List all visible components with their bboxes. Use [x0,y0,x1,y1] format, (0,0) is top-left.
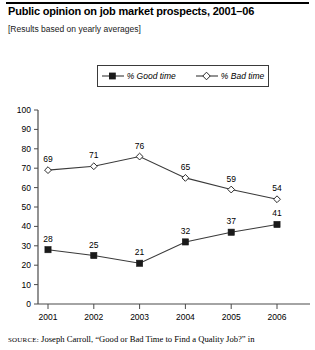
data-point-marker [91,252,97,258]
line-chart-plot: 1009080706050403020100 20012002200320042… [0,0,315,330]
y-tick-label: 50 [22,202,32,212]
data-point-marker [90,163,97,170]
y-tick-label: 100 [17,105,31,115]
x-tick-label: 2002 [84,312,103,322]
data-point-marker [274,221,280,227]
data-point-label: 41 [272,208,282,218]
y-tick-label: 60 [22,183,32,193]
data-point-label: 25 [89,240,99,250]
x-tick-label: 2003 [130,312,149,322]
data-point-marker [45,247,51,253]
y-axis: 1009080706050403020100 [17,105,38,309]
data-point-marker [274,196,281,203]
data-point-marker [137,260,143,266]
x-tick-label: 2005 [222,312,241,322]
data-point-label: 54 [272,183,282,193]
y-tick-label: 40 [22,221,32,231]
source-text: Joseph Carroll, “Good or Bad Time to Fin… [39,334,255,344]
data-point-label: 28 [43,234,53,244]
data-point-label: 37 [226,216,236,226]
data-point-marker [182,239,188,245]
data-point-label: 21 [135,247,145,257]
y-tick-label: 0 [26,299,31,309]
data-point-label: 59 [226,174,236,184]
data-point-label: 65 [181,162,191,172]
data-point-label: 69 [43,154,53,164]
data-series-layer [45,153,281,266]
y-tick-label: 10 [22,280,32,290]
y-tick-label: 80 [22,144,32,154]
y-tick-label: 70 [22,163,32,173]
data-point-label: 32 [181,226,191,236]
data-point-label: 71 [89,150,99,160]
y-tick-label: 30 [22,241,32,251]
x-tick-label: 2006 [268,312,287,322]
data-point-marker [45,167,52,174]
data-point-labels-layer: 282521323741697176655954 [43,141,282,258]
data-point-marker [136,153,143,160]
y-tick-label: 20 [22,260,32,270]
data-point-marker [182,175,189,182]
data-point-marker [228,186,235,193]
series-line [48,157,277,200]
x-axis: 200120022003200420052006 [38,304,310,322]
series-line [48,224,277,263]
chart-figure: Public opinion on job market prospects, … [0,0,315,350]
source-note: SOURCE: Joseph Carroll, “Good or Bad Tim… [8,334,313,346]
x-tick-label: 2004 [176,312,195,322]
source-kicker: SOURCE: [8,336,39,344]
data-point-label: 76 [135,141,145,151]
y-tick-label: 90 [22,124,32,134]
data-point-marker [228,229,234,235]
x-tick-label: 2001 [39,312,58,322]
